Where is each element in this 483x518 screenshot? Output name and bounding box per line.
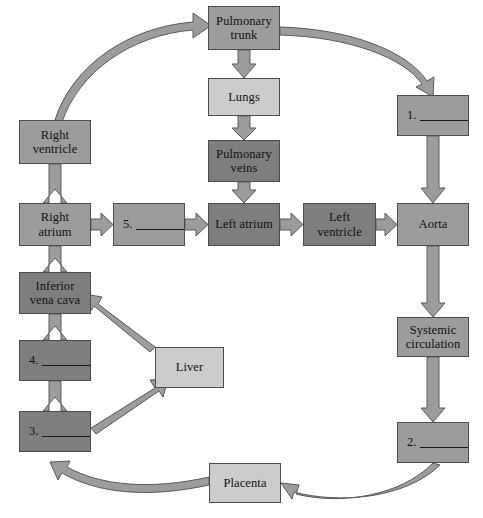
node-label: Liver	[173, 360, 207, 374]
node-label: Left atrium	[212, 217, 276, 231]
node-left-ventricle: Left ventricle	[303, 203, 376, 246]
arrow-pulmonary-trunk-to-blank-1	[280, 27, 434, 97]
arrow-right-ventricle-to-pulmonary-trunk	[55, 13, 211, 122]
node-left-atrium: Left atrium	[208, 203, 280, 246]
arrow-left-ventricle-to-aorta	[376, 213, 397, 236]
node-label: Pulmonary trunk	[209, 14, 279, 43]
node-pulmonary-veins: Pulmonary veins	[208, 140, 280, 182]
blank-number: 4.	[29, 353, 39, 367]
node-blank-4[interactable]: 4.	[19, 340, 91, 381]
node-label: Aorta	[416, 217, 451, 231]
arrow-blank-3-to-blank-4	[43, 381, 67, 411]
node-label: Inferior vena cava	[20, 279, 90, 308]
node-liver: Liver	[155, 347, 224, 388]
node-blank-2[interactable]: 2.	[397, 422, 469, 463]
blank-number: 5.	[123, 217, 133, 231]
node-placenta: Placenta	[209, 463, 281, 503]
node-lungs: Lungs	[208, 78, 280, 116]
node-blank-3[interactable]: 3.	[19, 411, 91, 452]
arrow-right-atrium-to-right-ventricle	[43, 164, 67, 203]
node-aorta: Aorta	[397, 203, 469, 246]
node-inferior-vena-cava: Inferior vena cava	[19, 272, 91, 314]
arrow-blank-4-to-inferior-vena-cava	[43, 314, 67, 340]
node-label: Placenta	[220, 476, 269, 490]
node-blank-1[interactable]: 1.	[397, 95, 469, 136]
blank-answer-line[interactable]	[42, 356, 90, 366]
blank-answer-line[interactable]	[136, 220, 184, 230]
arrow-placenta-to-blank-3	[50, 461, 209, 492]
arrow-right-atrium-to-blank-5	[91, 213, 113, 236]
node-systemic-circulation: Systemic circulation	[397, 317, 469, 357]
arrow-blank-2-to-placenta	[281, 463, 440, 499]
node-blank-5[interactable]: 5.	[113, 203, 185, 246]
node-label: Systemic circulation	[398, 323, 468, 352]
node-right-ventricle: Right ventricle	[19, 120, 91, 164]
blank-answer-line[interactable]	[42, 427, 90, 437]
node-label: Pulmonary veins	[209, 147, 279, 176]
arrow-liver-to-inferior-vena-cava	[84, 294, 155, 352]
blank-number: 3.	[29, 424, 39, 438]
arrow-systemic-circulation-to-blank-2	[421, 357, 445, 422]
arrow-blank-5-to-left-atrium	[185, 213, 208, 236]
arrow-pulmonary-veins-to-left-atrium	[232, 182, 256, 203]
node-right-atrium: Right atrium	[19, 203, 91, 246]
blank-answer-line[interactable]	[420, 438, 468, 448]
arrow-aorta-to-systemic-circulation	[421, 246, 445, 317]
arrow-inferior-vena-cava-to-right-atrium	[43, 246, 67, 272]
blank-answer-line[interactable]	[420, 111, 468, 121]
flowchart-diagram: .blockarrow { fill: #9c9c9c; stroke: #5a…	[0, 0, 483, 518]
node-label: Right ventricle	[20, 128, 90, 157]
node-label: Lungs	[225, 90, 263, 104]
arrow-lungs-to-pulmonary-veins	[232, 116, 256, 140]
node-label: Right atrium	[20, 210, 90, 239]
arrow-blank-1-to-aorta	[421, 136, 445, 203]
arrow-pulmonary-trunk-to-lungs	[232, 50, 256, 78]
blank-number: 1.	[407, 108, 417, 122]
node-pulmonary-trunk: Pulmonary trunk	[208, 6, 280, 50]
arrow-left-atrium-to-left-ventricle	[280, 213, 303, 236]
node-label: Left ventricle	[304, 210, 375, 239]
blank-number: 2.	[407, 435, 417, 449]
